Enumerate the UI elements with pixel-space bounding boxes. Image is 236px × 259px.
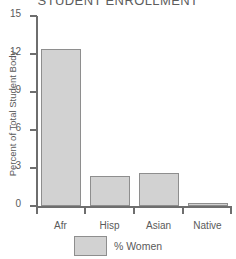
y-axis-tick-label: 6 [15, 122, 21, 133]
x-axis-label-hisp: Hisp [99, 220, 119, 231]
y-axis-tick: 12 [30, 53, 37, 55]
x-axis-label-asian: Asian [146, 220, 171, 231]
y-axis-tick: 3 [30, 167, 37, 169]
y-axis-line [36, 16, 38, 208]
legend-label-women: % Women [114, 240, 162, 252]
bar-hisp [90, 176, 130, 206]
y-axis-tick-label: 9 [15, 84, 21, 95]
chart-title: STUDENT ENROLLMENT [0, 0, 236, 8]
x-axis-tick [84, 207, 86, 214]
student-enrollment-bar-chart: STUDENT ENROLLMENT Percent of Total Stud… [0, 0, 236, 259]
x-axis-tick [230, 207, 232, 214]
bar-native [188, 203, 228, 206]
chart-legend: % Women [0, 236, 236, 256]
x-axis-tick [182, 207, 184, 214]
x-axis-label-native: Native [193, 220, 221, 231]
y-axis-tick: 6 [30, 129, 37, 131]
x-axis-tick [36, 207, 38, 214]
bar-afr [41, 49, 81, 206]
y-axis-tick: 15 [30, 15, 37, 17]
y-axis-tick-label: 12 [10, 46, 21, 57]
plot-area: 03691215 AfrHispAsianNative [36, 16, 232, 208]
legend-swatch-women [74, 236, 107, 256]
y-axis-tick: 9 [30, 91, 37, 93]
x-axis-label-afr: Afr [54, 220, 67, 231]
y-axis-tick-label: 3 [15, 160, 21, 171]
y-axis-tick-label: 15 [10, 8, 21, 19]
y-axis-tick-label: 0 [15, 198, 21, 209]
x-axis-tick [133, 207, 135, 214]
bar-asian [139, 173, 179, 206]
